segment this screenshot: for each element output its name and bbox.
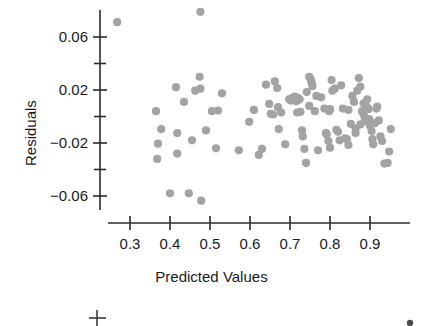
data-point [196,8,204,16]
data-point [385,148,393,156]
data-point [188,136,196,144]
data-point [355,74,363,82]
data-point [384,159,392,167]
data-point [245,118,253,126]
data-point [281,140,289,148]
data-point [258,145,266,153]
data-points-group [113,8,395,205]
data-point [152,107,160,115]
data-point [296,95,304,103]
x-tick-label: 0.5 [195,236,225,251]
x-tick-label: 0.3 [115,236,145,251]
data-point [265,100,273,108]
data-point [212,144,220,152]
data-point [196,85,204,93]
data-point [378,137,386,145]
data-point [326,105,334,113]
next-plot-data-point [407,320,413,326]
data-point [218,89,226,97]
data-point [368,127,376,135]
data-point [113,18,121,26]
x-axis-title: Predicted Values [0,268,423,285]
data-point [250,106,258,114]
data-point [356,83,364,91]
data-point [317,93,325,101]
data-point [277,108,285,116]
y-tick-label: −0.02 [50,135,88,150]
data-point [196,73,204,81]
data-point [173,129,181,137]
data-point [334,128,342,136]
data-point [344,141,352,149]
data-point [173,150,181,158]
x-tick-label: 0.4 [155,236,185,251]
data-point [347,120,355,128]
data-point [375,116,383,124]
data-point [311,107,319,115]
x-tick-label: 0.6 [235,236,265,251]
data-point [344,106,352,114]
data-point [360,99,368,107]
data-point [180,98,188,106]
data-point [308,82,316,90]
data-point [299,132,307,140]
data-point [275,125,283,133]
y-tick-label: −0.06 [50,188,88,203]
data-point [296,108,304,116]
data-point [369,140,377,148]
data-point [202,126,210,134]
data-point [326,144,334,152]
data-point [262,81,270,89]
x-tick-label: 0.8 [315,236,345,251]
data-point [208,107,216,115]
data-point [328,76,336,84]
y-axis-title: Residuals [22,100,39,166]
residual-plot-figure: 0.060.02−0.02−0.06 0.30.40.50.60.70.80.9… [0,0,423,326]
data-point [269,110,277,118]
data-point [154,140,162,148]
data-point [302,159,310,167]
data-point [197,197,205,205]
data-point [337,81,345,89]
x-tick-label: 0.9 [355,236,385,251]
data-point [303,88,311,96]
y-tick-label: 0.02 [59,82,88,97]
data-point [350,98,358,106]
data-point [387,125,395,133]
data-point [157,125,165,133]
data-point [273,84,281,92]
next-plot-axis-fragment [89,310,413,326]
data-point [373,102,381,110]
data-point [185,189,193,197]
data-point [300,145,308,153]
data-point [172,83,180,91]
x-tick-label: 0.7 [275,236,305,251]
data-point [235,146,243,154]
data-point [166,189,174,197]
data-point [314,146,322,154]
data-point [153,155,161,163]
y-tick-label: 0.06 [59,29,88,44]
